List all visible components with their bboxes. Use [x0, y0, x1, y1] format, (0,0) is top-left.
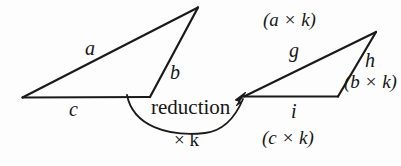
label-side-g: g [289, 40, 299, 60]
label-side-b: b [170, 62, 180, 82]
label-side-i: i [291, 101, 297, 121]
figure-canvas [0, 0, 401, 166]
label-reduction-factor: × k [174, 130, 199, 149]
label-side-h: h [365, 50, 375, 70]
label-side-c: c [69, 99, 78, 119]
label-side-g-expression: (a × k) [263, 10, 316, 29]
label-reduction-operation: reduction [151, 97, 230, 118]
label-side-a: a [85, 38, 95, 58]
original-triangle-shape [23, 8, 199, 98]
original-triangle-side-a [23, 8, 199, 98]
triangle-reduction-figure: a b c g h i (a × k) (b × k) (c × k) redu… [0, 0, 401, 166]
label-side-i-expression: (c × k) [262, 128, 314, 147]
label-side-h-expression: (b × k) [344, 72, 397, 91]
original-triangle-side-c [23, 97, 151, 98]
